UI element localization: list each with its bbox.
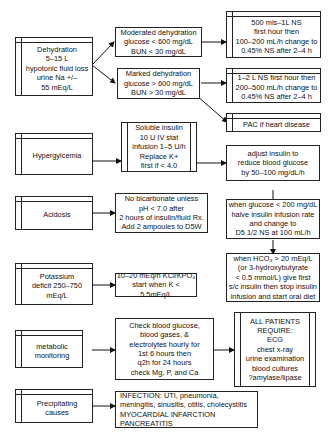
moderate-dehydration-box: Moderated dehydration glucose < 600 mg/d…	[115, 27, 202, 57]
kcl-box: 10–20 mEq/h KCl/KPO₄ start when K < 5.5m…	[115, 273, 197, 297]
marked-dehydration-text: Marked dehydration glucose > 600 mg/dL B…	[124, 69, 193, 97]
ns-moderate-text: 500 mls–1L NS first hour then 100–200 mL…	[236, 18, 318, 56]
check-blood-text: Check blood glucose, blood gases, & elec…	[129, 321, 200, 377]
soluble-insulin-text: Soluble insulin 10 U IV stat infusion 1–…	[132, 123, 185, 170]
all-patients-text: ALL PATIENTS REQUIRE: ECG chest x-ray ur…	[246, 317, 304, 383]
ns-marked-text: 1–2 L NS first hour then 200–500 mL/h ch…	[236, 73, 318, 101]
hyperglycemia-text: Hypergylcemia	[33, 151, 82, 160]
dehydration-text: Dehydration 5–15 L hypotonic fluid loss …	[26, 45, 88, 92]
acidosis-box: Acidosis	[15, 196, 93, 230]
precipitating-causes-text: Precipitating causes	[37, 399, 78, 418]
potassium-box: Potassium deficit 250–750 mEq/L	[15, 263, 93, 305]
acidosis-text: Acidosis	[43, 210, 71, 219]
halve-insulin-text: when glucose < 200 mg/dL halve insulin i…	[229, 200, 318, 238]
marked-dehydration-box: Marked dehydration glucose > 600 mg/dL B…	[117, 68, 200, 99]
hco3-box: when HCO₃ > 20 mEq/L (or 3-hydroxybutyra…	[226, 253, 320, 302]
pac-box: PAC if heart disease	[226, 113, 321, 132]
adjust-insulin-box: adjust insulin to reduce blood glucose b…	[226, 145, 320, 181]
precipitating-causes-box: Precipitating causes	[15, 389, 93, 423]
kcl-text: 10–20 mEq/h KCl/KPO₄ start when K < 5.5m…	[116, 271, 196, 299]
all-patients-box: ALL PATIENTS REQUIRE: ECG chest x-ray ur…	[234, 312, 316, 387]
bicarbonate-box: No bicarbonate unless pH < 7.0 after 2 h…	[115, 193, 208, 233]
ns-marked-box: 1–2 L NS first hour then 200–500 mL/h ch…	[226, 68, 321, 103]
potassium-text: Potassium deficit 250–750 mEq/L	[32, 272, 82, 300]
halve-insulin-box: when glucose < 200 mg/dL halve insulin i…	[226, 199, 320, 239]
soluble-insulin-box: Soluble insulin 10 U IV stat infusion 1–…	[121, 122, 197, 172]
metabolic-monitoring-text: metabolic monitoring	[35, 342, 70, 361]
dehydration-box: Dehydration 5–15 L hypotonic fluid loss …	[15, 37, 93, 96]
check-blood-box: Check blood glucose, blood gases, & elec…	[115, 318, 214, 380]
moderate-dehydration-text: Moderated dehydration glucose < 600 mg/d…	[120, 28, 196, 56]
bicarbonate-text: No bicarbonate unless pH < 7.0 after 2 h…	[119, 194, 204, 232]
infection-box: INFECTION: UTI, pneumonia, meningitis, s…	[115, 391, 258, 428]
infection-text: INFECTION: UTI, pneumonia, meningitis, s…	[120, 391, 247, 429]
ns-moderate-box: 500 mls–1L NS first hour then 100–200 mL…	[226, 11, 321, 58]
metabolic-monitoring-box: metabolic monitoring	[15, 330, 83, 368]
hyperglycemia-box: Hypergylcemia	[15, 133, 93, 175]
adjust-insulin-text: adjust insulin to reduce blood glucose b…	[238, 149, 308, 177]
hco3-text: when HCO₃ > 20 mEq/L (or 3-hydroxybutyra…	[229, 254, 317, 301]
pac-text: PAC if heart disease	[243, 120, 310, 129]
